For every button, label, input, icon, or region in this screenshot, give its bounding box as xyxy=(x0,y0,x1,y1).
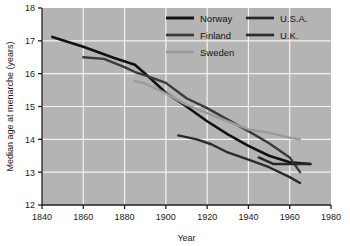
y-tick-label: 12 xyxy=(25,200,35,210)
y-tick-label: 15 xyxy=(25,102,35,112)
legend-label-sweden: Sweden xyxy=(200,47,234,58)
y-tick-label: 14 xyxy=(25,135,35,145)
y-tick-label: 16 xyxy=(25,69,35,79)
x-tick-label: 1880 xyxy=(115,212,135,222)
legend-label-usa: U.S.A. xyxy=(280,13,307,24)
menarche-age-line-chart: 1213141516171818401860188019001920194019… xyxy=(0,0,350,246)
x-axis-title: Year xyxy=(177,233,195,243)
x-tick-label: 1980 xyxy=(321,212,341,222)
legend-label-uk: U.K. xyxy=(280,30,298,41)
x-tick-label: 1900 xyxy=(156,212,176,222)
y-tick-label: 13 xyxy=(25,168,35,178)
x-tick-label: 1940 xyxy=(238,212,258,222)
x-tick-label: 1840 xyxy=(32,212,52,222)
legend-label-finland: Finland xyxy=(200,30,231,41)
y-axis-title: Median age at menarche (years) xyxy=(5,41,15,171)
chart-figure: 1213141516171818401860188019001920194019… xyxy=(0,0,350,246)
legend-label-norway: Norway xyxy=(200,13,232,24)
x-tick-label: 1920 xyxy=(197,212,217,222)
x-tick-label: 1860 xyxy=(73,212,93,222)
y-tick-label: 17 xyxy=(25,36,35,46)
y-tick-label: 18 xyxy=(25,3,35,13)
x-tick-label: 1960 xyxy=(280,212,300,222)
